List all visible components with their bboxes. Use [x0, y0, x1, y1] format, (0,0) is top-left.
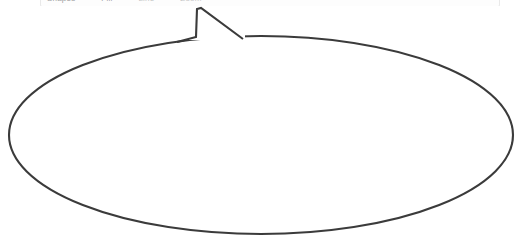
speech-bubble-drawing[interactable] [0, 0, 523, 240]
bubble-fill-ellipse [9, 36, 513, 234]
bubble-fill-group [9, 8, 513, 234]
drawing-canvas[interactable]: Shapes Fill Line Zoom [0, 0, 523, 240]
